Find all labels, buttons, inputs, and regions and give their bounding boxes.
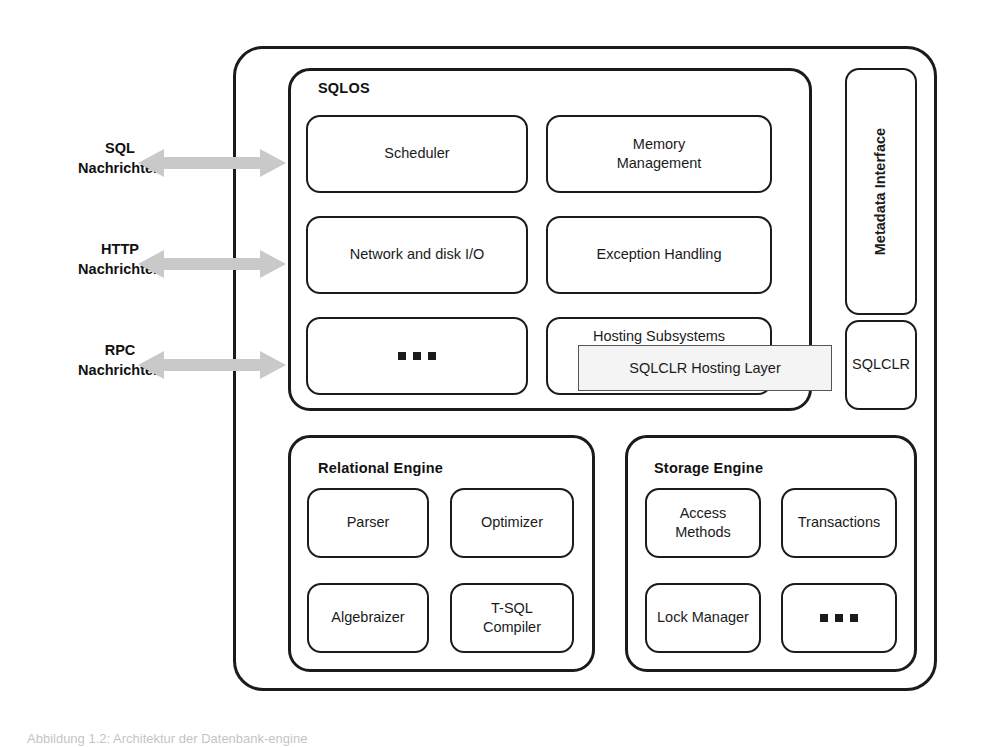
relational-box-optimizer-label: Optimizer <box>481 513 543 532</box>
sqlos-box-scheduler[interactable]: Scheduler <box>306 115 528 193</box>
metadata-interface-label: Metadata Interface <box>871 128 890 255</box>
sqlos-box-more[interactable] <box>306 317 528 395</box>
storage-box-access-methods-label: Access Methods <box>675 504 731 542</box>
relational-box-algebraizer-label: Algebraizer <box>331 608 404 627</box>
storage-box-access-methods[interactable]: Access Methods <box>645 488 761 558</box>
sqlclr-hosting-layer-label: SQLCLR Hosting Layer <box>629 360 781 376</box>
sqlclr-label: SQLCLR <box>852 355 910 374</box>
ellipsis-icon-sqlos <box>398 352 436 360</box>
storage-box-more[interactable] <box>781 583 897 653</box>
sqlos-box-scheduler-label: Scheduler <box>384 144 449 163</box>
relational-engine-title: Relational Engine <box>318 460 443 476</box>
relational-box-parser[interactable]: Parser <box>307 488 429 558</box>
storage-box-lock-manager-label: Lock Manager <box>657 608 749 627</box>
sqlos-box-network-disk-io-label: Network and disk I/O <box>350 245 485 264</box>
relational-box-optimizer[interactable]: Optimizer <box>450 488 574 558</box>
double-arrow-icon-sql <box>138 143 286 183</box>
sqlos-box-memory-management-label: Memory Management <box>617 135 702 173</box>
sqlos-box-hosting-subsystems-label: Hosting Subsystems <box>593 327 725 346</box>
figure-caption: Abbildung 1.2: Architektur der Datenbank… <box>27 731 307 746</box>
storage-box-lock-manager[interactable]: Lock Manager <box>645 583 761 653</box>
sqlclr-box[interactable]: SQLCLR <box>845 320 917 410</box>
sqlos-title: SQLOS <box>318 80 370 96</box>
relational-box-parser-label: Parser <box>347 513 390 532</box>
relational-box-tsql-compiler-label: T-SQL Compiler <box>483 599 541 637</box>
metadata-interface-box[interactable]: Metadata Interface <box>845 68 917 315</box>
sqlos-box-memory-management[interactable]: Memory Management <box>546 115 772 193</box>
relational-box-tsql-compiler[interactable]: T-SQL Compiler <box>450 583 574 653</box>
figure-canvas: SQL Nachrichten HTTP Nachrichten RPC Nac… <box>0 0 1000 747</box>
sqlos-box-exception-handling-label: Exception Handling <box>597 245 722 264</box>
storage-engine-title: Storage Engine <box>654 460 763 476</box>
storage-box-transactions-label: Transactions <box>798 513 880 532</box>
sqlos-box-exception-handling[interactable]: Exception Handling <box>546 216 772 294</box>
sqlos-box-network-disk-io[interactable]: Network and disk I/O <box>306 216 528 294</box>
storage-box-transactions[interactable]: Transactions <box>781 488 897 558</box>
double-arrow-icon-http <box>138 244 286 284</box>
relational-box-algebraizer[interactable]: Algebraizer <box>307 583 429 653</box>
ellipsis-icon-storage <box>820 614 858 622</box>
double-arrow-icon-rpc <box>138 345 286 385</box>
sqlclr-hosting-layer-callout[interactable]: SQLCLR Hosting Layer <box>578 345 832 391</box>
